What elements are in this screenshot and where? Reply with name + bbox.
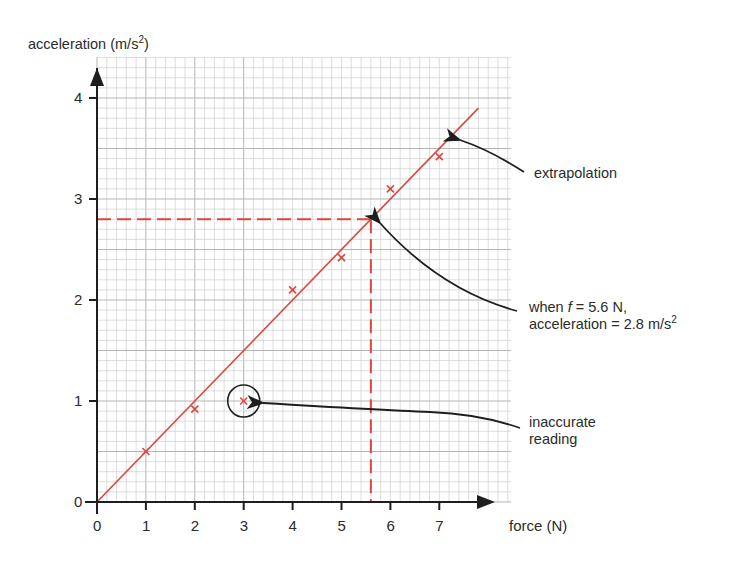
- x-tick-label: 1: [142, 517, 150, 534]
- x-tick-label: 6: [386, 517, 394, 534]
- annotation-reading-line2: acceleration = 2.8 m/s2: [529, 316, 677, 333]
- y-tick-label: 0: [74, 493, 82, 510]
- x-axis-label: force (N): [509, 517, 567, 535]
- y-axis-label: acceleration (m/s2): [28, 36, 149, 53]
- best-fit-line: [97, 108, 478, 502]
- x-tick-label: 7: [435, 517, 443, 534]
- x-tick-label: 0: [93, 517, 101, 534]
- x-tick-label: 4: [289, 517, 297, 534]
- fit-line: [97, 108, 478, 502]
- x-tick-label: 3: [240, 517, 248, 534]
- annotation-reading-line1: when f = 5.6 N,: [529, 299, 677, 316]
- y-axis-arrow-icon: [90, 68, 104, 86]
- axes: [85, 68, 495, 514]
- annotation-reading-value: when f = 5.6 N, acceleration = 2.8 m/s2: [529, 299, 677, 334]
- x-tick-label: 5: [338, 517, 346, 534]
- grid-paper: [97, 57, 511, 502]
- y-tick-label: 3: [74, 190, 82, 207]
- x-tick-label: 2: [191, 517, 199, 534]
- x-axis-arrow-icon: [477, 495, 495, 509]
- annotation-extrapolation: extrapolation: [534, 165, 617, 182]
- y-tick-label: 1: [74, 392, 82, 409]
- y-tick-label: 4: [74, 89, 82, 106]
- reading-arrow-icon: [380, 223, 517, 311]
- extrapolation-arrow-icon: [460, 140, 524, 172]
- annotation-inaccurate-reading: inaccurate reading: [529, 414, 596, 449]
- chart-canvas: [0, 0, 755, 568]
- y-tick-label: 2: [74, 291, 82, 308]
- inaccurate-arrow-icon: [263, 403, 520, 428]
